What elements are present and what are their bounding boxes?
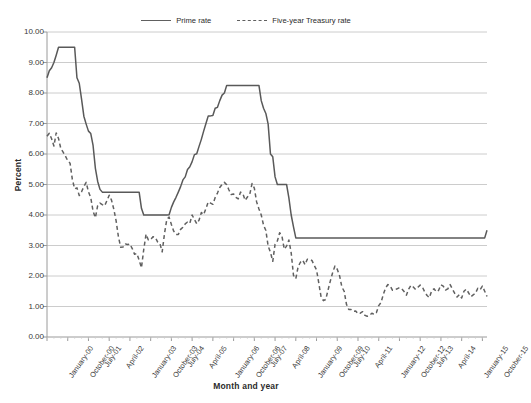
y-axis-tick-label: 5.00 xyxy=(4,181,44,189)
legend-swatch-solid-icon xyxy=(141,20,171,21)
series-line-prime-rate xyxy=(47,47,487,238)
legend-label-treasury-rate: Five-year Treasury rate xyxy=(272,16,351,25)
y-axis-tick-label: 3.00 xyxy=(4,242,44,250)
chart-gridlines xyxy=(47,32,487,337)
y-axis-title: Percent xyxy=(13,135,23,215)
legend-label-prime-rate: Prime rate xyxy=(176,16,211,25)
y-axis-tick-label: 6.00 xyxy=(4,150,44,158)
y-axis-tick-label: 1.00 xyxy=(4,303,44,311)
y-axis-tick-label: 0.00 xyxy=(4,333,44,341)
legend-swatch-dashed-icon xyxy=(237,20,267,21)
y-axis-tick-label: 8.00 xyxy=(4,89,44,97)
chart-x-tickmarks xyxy=(47,337,482,341)
y-axis-tick-label: 7.00 xyxy=(4,120,44,128)
y-axis-tick-label: 10.00 xyxy=(4,28,44,36)
chart-legend: Prime rate Five-year Treasury rate xyxy=(0,16,492,25)
y-axis-tick-label: 4.00 xyxy=(4,211,44,219)
legend-item-treasury-rate: Five-year Treasury rate xyxy=(237,16,351,25)
y-axis-tick-label: 2.00 xyxy=(4,272,44,280)
series-line-five-year-treasury-rate xyxy=(47,133,487,316)
legend-item-prime-rate: Prime rate xyxy=(141,16,211,25)
x-axis-title: Month and year xyxy=(0,381,492,391)
y-axis-tick-label: 9.00 xyxy=(4,59,44,67)
